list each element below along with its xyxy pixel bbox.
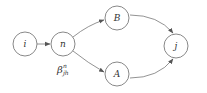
- beta-superscript: n: [63, 62, 67, 69]
- node-B-label: B: [113, 13, 121, 23]
- node-j: j: [164, 34, 188, 58]
- node-i: i: [13, 32, 37, 56]
- edge-A-j: [130, 59, 173, 78]
- edge-B-j: [130, 15, 173, 33]
- node-B: B: [105, 6, 129, 30]
- node-n-label: n: [60, 39, 66, 49]
- graph-diagram: i n B A j β n jh: [0, 0, 207, 93]
- edge-n-A: [73, 51, 104, 72]
- node-i-label: i: [24, 39, 27, 49]
- edge-label-beta: β n jh: [56, 62, 69, 77]
- node-n: n: [51, 32, 75, 56]
- beta-subscript: jh: [61, 69, 69, 77]
- node-A-label: A: [113, 69, 121, 79]
- node-A: A: [105, 62, 129, 86]
- beta-symbol: β: [56, 64, 63, 75]
- edge-n-B: [73, 20, 104, 37]
